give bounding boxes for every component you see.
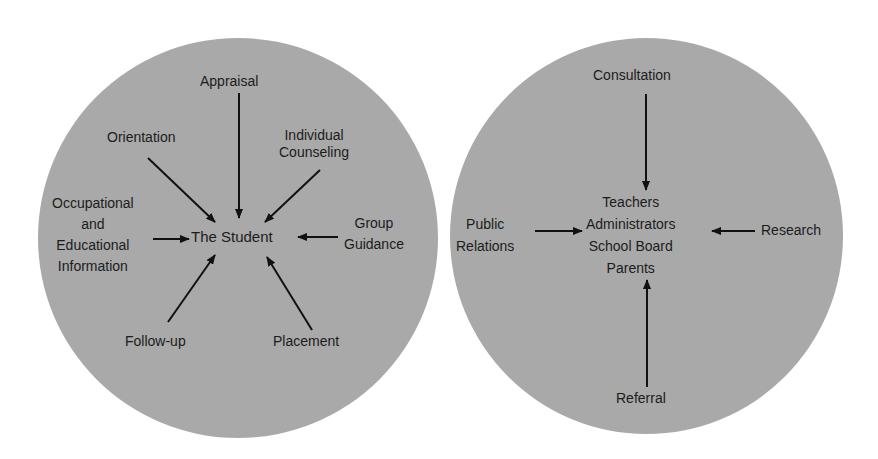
arrow-individual-counseling [265,170,320,222]
arrow-orientation [148,158,215,222]
label-research: Research [761,222,821,239]
label-placement: Placement [273,333,339,350]
label-public-relations: Public Relations [456,213,514,257]
label-orientation: Orientation [107,129,175,146]
label-administrators: Administrators [586,213,675,235]
label-occupational-information: Occupational and Educational Information [52,193,134,277]
label-group-guidance: Group Guidance [344,213,404,255]
label-appraisal: Appraisal [200,73,258,90]
label-line: Educational [52,235,134,256]
label-school-board: School Board [586,235,675,257]
arrow-placement [267,257,312,330]
label-line: Relations [456,235,514,257]
label-consultation: Consultation [593,67,671,84]
label-center-group: Teachers Administrators School Board Par… [586,191,675,279]
label-referral: Referral [616,390,666,407]
label-parents: Parents [586,257,675,279]
label-follow-up: Follow-up [125,333,186,350]
label-line: Information [52,256,134,277]
label-line: Guidance [344,234,404,255]
label-teachers: Teachers [586,191,675,213]
label-line: Occupational [52,193,134,214]
label-individual-counseling: Individual Counseling [279,127,349,161]
label-the-student: The Student [191,228,273,246]
label-line: and [52,214,134,235]
arrow-follow-up [168,255,215,322]
label-line: Individual [279,127,349,144]
label-line: Group [344,213,404,234]
label-line: Counseling [279,144,349,161]
label-line: Public [456,213,514,235]
